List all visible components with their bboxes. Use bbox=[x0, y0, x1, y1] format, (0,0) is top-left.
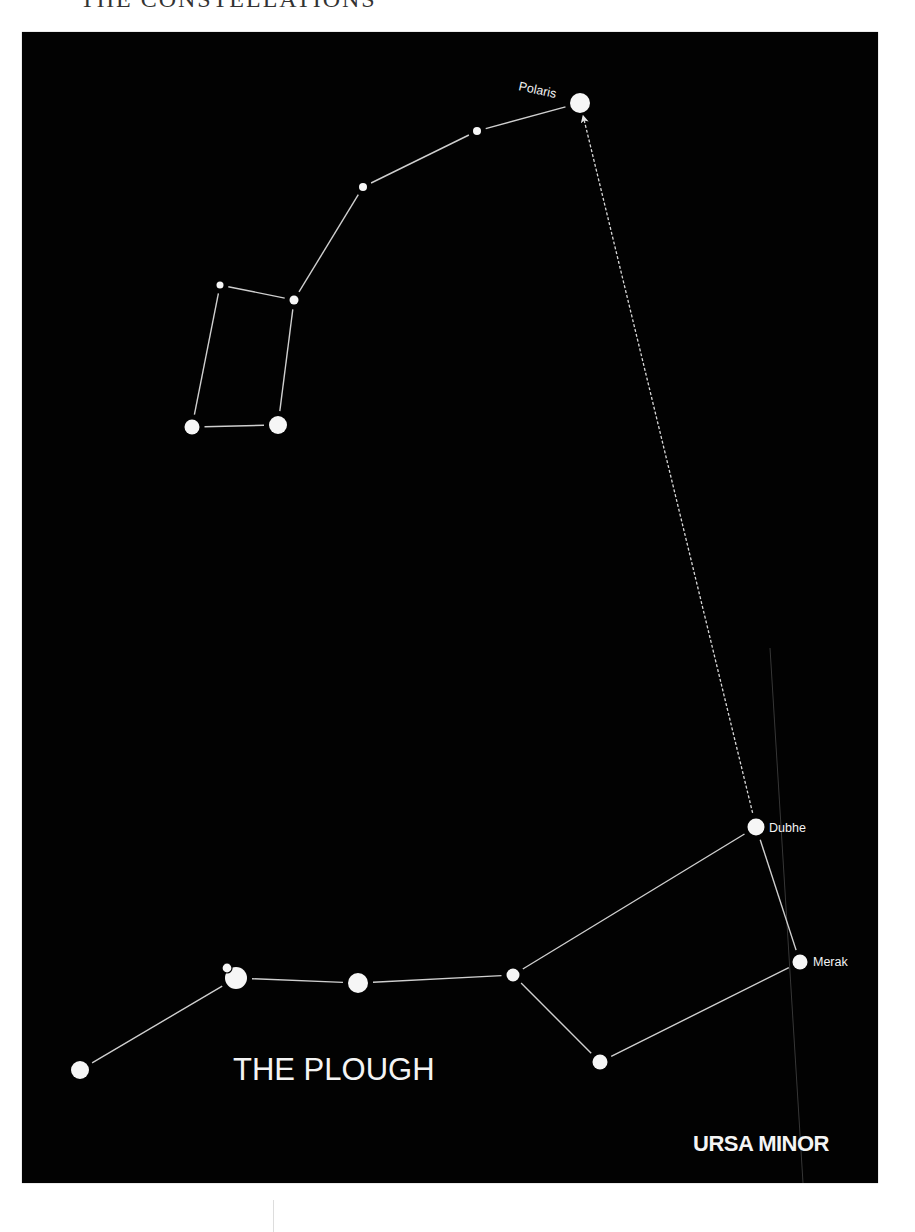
star-megrez bbox=[507, 969, 520, 982]
ursa-minor-lines bbox=[194, 107, 565, 427]
ursa-minor-line-um5-um6 bbox=[194, 293, 218, 414]
ursa-minor-line-polaris-um2 bbox=[486, 107, 566, 129]
star-alkaid bbox=[71, 1061, 89, 1079]
ursa-minor-line-um4-um5 bbox=[228, 287, 284, 298]
star-polaris bbox=[570, 93, 590, 113]
scan-artifact-line bbox=[770, 648, 803, 1183]
plough-line-dubhe-merak bbox=[760, 840, 796, 950]
plough-line-alkaid-mizar bbox=[92, 986, 222, 1063]
star-um2 bbox=[473, 127, 481, 135]
star-alioth bbox=[348, 973, 368, 993]
plough-line-alioth-megrez bbox=[373, 976, 502, 983]
star-um3 bbox=[359, 183, 367, 191]
plough-line-phecda-megrez bbox=[521, 983, 591, 1053]
ursa-minor-line-um7-um4 bbox=[280, 309, 293, 411]
label-dubhe: Dubhe bbox=[769, 821, 806, 835]
constellation-title-plough: THE PLOUGH bbox=[233, 1052, 435, 1087]
star-dubhe bbox=[748, 819, 765, 836]
ursa-minor-line-um6-um7 bbox=[205, 425, 265, 426]
label-merak: Merak bbox=[813, 955, 848, 969]
star-phecda bbox=[593, 1055, 608, 1070]
star-alcor bbox=[222, 963, 232, 973]
plough-lines bbox=[92, 834, 796, 1063]
ursa-minor-line-um3-um4 bbox=[299, 195, 358, 292]
stars bbox=[71, 93, 808, 1079]
star-merak bbox=[793, 955, 808, 970]
ursa-minor-line-um2-um3 bbox=[371, 135, 469, 183]
star-um5 bbox=[217, 282, 224, 289]
crop-mark bbox=[273, 1200, 274, 1232]
pointer-arrow-dubhe-to-polaris bbox=[583, 117, 752, 813]
star-um7 bbox=[269, 416, 287, 434]
plough-line-mizar-alioth bbox=[252, 979, 343, 983]
label-polaris: Polaris bbox=[517, 79, 557, 101]
constellation-diagram: Polaris Dubhe Merak THE PLOUGH URSA MINO… bbox=[0, 0, 915, 1232]
star-um6 bbox=[185, 420, 200, 435]
plough-line-merak-phecda bbox=[611, 968, 789, 1057]
plough-line-megrez-dubhe bbox=[523, 834, 745, 969]
star-um4 bbox=[290, 296, 299, 305]
constellation-title-ursa-minor: URSA MINOR bbox=[693, 1131, 830, 1156]
